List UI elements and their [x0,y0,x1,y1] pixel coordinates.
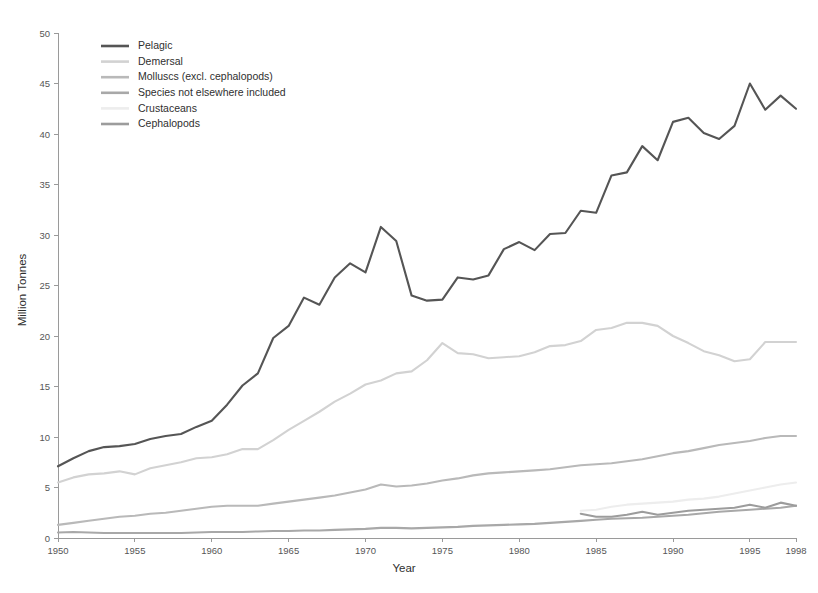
x-axis-title: Year [392,562,415,574]
chart-canvas: 05101520253035404550 1950195519601965197… [0,0,818,593]
x-tick-label: 1950 [47,545,68,556]
y-tick-label: 30 [39,230,50,241]
legend-label-4: Species not elsewhere included [138,86,286,98]
y-tick-label: 50 [39,28,50,39]
x-tick-label: 1998 [785,545,806,556]
series-line-species-not-elsewhere-included [58,506,796,533]
x-tick-label: 1985 [586,545,607,556]
legend-label-5: Crustaceans [138,102,197,114]
series-line-demersal [58,323,796,483]
x-tick-label: 1980 [509,545,530,556]
legend-label-2: Demersal [138,55,183,67]
x-tick-label: 1960 [201,545,222,556]
y-tick-label: 25 [39,280,50,291]
x-tick-label: 1965 [278,545,299,556]
y-tick-label: 35 [39,179,50,190]
y-tick-label: 5 [45,482,50,493]
y-tick-label: 45 [39,78,50,89]
x-tick-label: 1995 [739,545,760,556]
y-tick-label: 10 [39,432,50,443]
line-chart-container: 05101520253035404550 1950195519601965197… [0,0,818,593]
data-series-group [58,84,796,533]
x-axis-ticks: 1950195519601965197019751980198519901995… [47,538,806,556]
y-tick-label: 20 [39,331,50,342]
y-tick-label: 40 [39,129,50,140]
legend-label-3: Molluscs (excl. cephalopods) [138,70,273,82]
chart-legend: PelagicDemersalMolluscs (excl. cephalopo… [101,39,286,129]
x-tick-label: 1955 [124,545,145,556]
series-line-pelagic [58,84,796,467]
legend-label-1: Pelagic [138,39,172,51]
x-tick-label: 1970 [355,545,376,556]
y-axis-ticks: 05101520253035404550 [39,28,58,544]
x-tick-label: 1990 [662,545,683,556]
x-tick-label: 1975 [432,545,453,556]
y-axis-title: Million Tonnes [16,253,28,326]
y-tick-label: 15 [39,381,50,392]
legend-label-6: Cephalopods [138,117,200,129]
y-tick-label: 0 [45,533,50,544]
